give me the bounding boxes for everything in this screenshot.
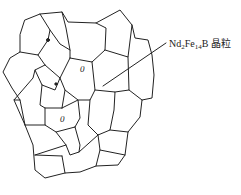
grain-label: Nd2Fe14B 晶粒 [169,35,231,50]
inclusion-marker: 0 [80,64,85,74]
label-prefix: Nd [169,38,181,49]
label-suffix: B 晶粒 [202,38,231,49]
grain-outer-boundary [3,10,154,178]
label-mid: Fe [185,38,195,49]
label-leader-line [103,43,166,86]
inclusion-marker: 0 [60,114,65,124]
grain-structure-diagram [0,0,241,195]
label-sub2: 14 [195,43,202,51]
